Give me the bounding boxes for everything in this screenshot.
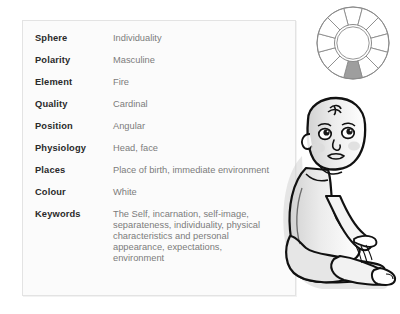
zodiac-wheel-icon [314,4,392,82]
attr-label-colour: Colour [23,187,113,209]
table-row: Position Angular [23,121,295,143]
table-row: Quality Cardinal [23,99,295,121]
attr-label-places: Places [23,165,113,187]
attr-label-polarity: Polarity [23,55,113,77]
attributes-panel: Sphere Individuality Polarity Masculine … [22,20,296,296]
keywords-line: appearance, expectations, [113,242,285,253]
table-row: Colour White [23,187,295,209]
table-row: Polarity Masculine [23,55,295,77]
table-row: Element Fire [23,77,295,99]
keywords-line: environment [113,253,285,264]
keywords-line: The Self, incarnation, self-image, [113,209,285,220]
page-root: Sphere Individuality Polarity Masculine … [0,0,400,314]
attr-label-element: Element [23,77,113,99]
table-row: Sphere Individuality [23,21,295,55]
wheel-inner-circle-inner [337,27,369,59]
baby-mouth [328,154,344,159]
attr-value-sphere: Individuality [113,21,295,55]
seated-baby-illustration [262,96,400,314]
baby-foot [372,268,395,285]
attr-value-polarity: Masculine [113,55,295,77]
table-row: Places Place of birth, immediate environ… [23,165,295,187]
attr-label-quality: Quality [23,99,113,121]
attr-label-physiology: Physiology [23,143,113,165]
table-row: Keywords The Self, incarnation, self-ima… [23,209,295,275]
keywords-line: separateness, individuality, physical [113,220,285,231]
attributes-table-body: Sphere Individuality Polarity Masculine … [23,21,295,275]
attr-label-sphere: Sphere [23,21,113,55]
table-row: Physiology Head, face [23,143,295,165]
attr-label-keywords: Keywords [23,209,113,275]
keywords-line: characteristics and personal [113,231,285,242]
attributes-table: Sphere Individuality Polarity Masculine … [23,21,295,275]
attr-label-position: Position [23,121,113,143]
